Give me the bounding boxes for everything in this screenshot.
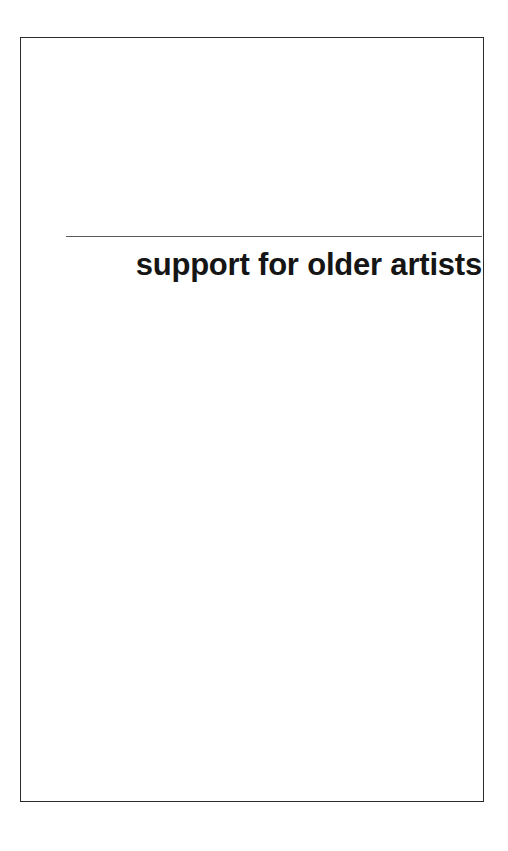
heading-block: support for older artists xyxy=(66,236,482,284)
page-title: support for older artists xyxy=(66,246,482,284)
heading-divider-rule xyxy=(66,236,482,237)
page-border-frame: support for older artists xyxy=(20,37,484,802)
scanned-page-canvas: support for older artists xyxy=(0,0,508,851)
